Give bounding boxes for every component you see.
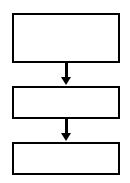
arrow-shaft: [65, 63, 68, 78]
flowchart-box-1: [12, 13, 120, 63]
arrow-down-icon: [61, 77, 71, 85]
arrow-down-icon: [61, 133, 71, 141]
flowchart-box-3: [12, 142, 120, 175]
arrow-shaft: [65, 119, 68, 134]
flowchart-box-2: [12, 86, 120, 119]
